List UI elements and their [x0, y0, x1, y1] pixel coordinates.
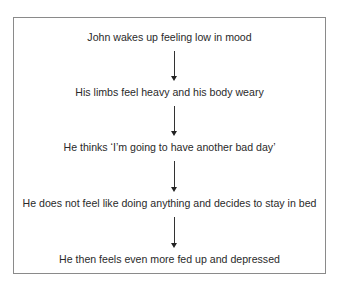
- step-1: John wakes up feeling low in mood: [14, 31, 325, 44]
- arrow-down-icon: [170, 161, 179, 193]
- arrow-down-icon: [170, 217, 179, 249]
- step-5: He then feels even more fed up and depre…: [14, 253, 325, 266]
- step-3: He thinks ‘I’m going to have another bad…: [14, 141, 325, 154]
- step-4: He does not feel like doing anything and…: [14, 197, 325, 210]
- arrow-down-icon: [170, 106, 179, 136]
- flowchart-frame: John wakes up feeling low in mood His li…: [13, 17, 326, 274]
- step-2: His limbs feel heavy and his body weary: [14, 86, 325, 99]
- arrow-down-icon: [170, 51, 179, 81]
